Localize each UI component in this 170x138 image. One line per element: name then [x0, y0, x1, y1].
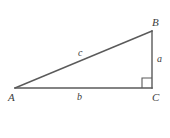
side-label-b: b — [77, 92, 82, 102]
vertex-label-c: C — [152, 92, 159, 103]
vertex-label-b: B — [152, 17, 159, 28]
vertex-label-a: A — [8, 92, 15, 103]
right-angle-marker-icon — [142, 78, 152, 88]
side-c-line — [15, 31, 152, 88]
side-label-a: a — [157, 54, 162, 64]
side-label-c: c — [78, 48, 82, 58]
triangle-drawing — [0, 0, 170, 138]
right-triangle-figure: A B C a b c — [0, 0, 170, 138]
